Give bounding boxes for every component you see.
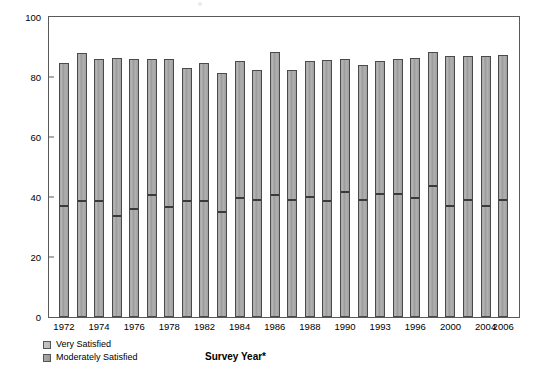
x-tick-label: 1990 xyxy=(334,321,355,332)
bar-segment-divider xyxy=(446,205,454,207)
stray-artifact-dot xyxy=(198,2,202,6)
x-tick-label: 2006 xyxy=(493,321,514,332)
stacked-bar[interactable] xyxy=(340,59,350,317)
stacked-bar[interactable] xyxy=(94,59,104,317)
plot-area: 020406080100 197219741976197819821984198… xyxy=(48,16,520,318)
stacked-bar[interactable] xyxy=(375,61,385,317)
x-tick-label: 1972 xyxy=(53,321,74,332)
stacked-bar[interactable] xyxy=(393,59,403,317)
legend-label: Moderately Satisfied xyxy=(56,352,138,363)
bar-segment-divider xyxy=(218,211,226,213)
stacked-bar[interactable] xyxy=(129,59,139,317)
chart-figure: Percent Satisfied 020406080100 197219741… xyxy=(0,0,537,377)
stacked-bar[interactable] xyxy=(199,63,209,317)
stacked-bar[interactable] xyxy=(463,56,473,317)
bar-segment-divider xyxy=(288,199,296,201)
bar-segment-divider xyxy=(130,208,138,210)
y-tick-label: 100 xyxy=(5,12,49,23)
stacked-bar[interactable] xyxy=(322,60,332,317)
bar-segment-divider xyxy=(411,197,419,199)
legend-swatch-icon xyxy=(43,341,51,349)
stacked-bar[interactable] xyxy=(428,52,438,318)
x-tick-label: 1974 xyxy=(88,321,109,332)
chart-legend: Very Satisfied Moderately Satisfied xyxy=(43,338,138,364)
bar-segment-divider xyxy=(78,200,86,202)
bar-segment-divider xyxy=(165,206,173,208)
x-tick-label: 1993 xyxy=(370,321,391,332)
stacked-bar[interactable] xyxy=(445,56,455,317)
stacked-bar[interactable] xyxy=(305,61,315,317)
legend-item-moderately-satisfied: Moderately Satisfied xyxy=(43,351,138,364)
x-tick-label: 1976 xyxy=(124,321,145,332)
x-axis-title: Survey Year* xyxy=(205,351,266,362)
x-tick-label: 1988 xyxy=(299,321,320,332)
y-tick-label: 20 xyxy=(5,252,49,263)
bar-segment-divider xyxy=(113,215,121,217)
bar-segment-divider xyxy=(359,199,367,201)
stacked-bar[interactable] xyxy=(59,63,69,317)
bar-segment-divider xyxy=(271,194,279,196)
x-tick-label: 1986 xyxy=(264,321,285,332)
bar-segment-divider xyxy=(394,193,402,195)
legend-label: Very Satisfied xyxy=(56,339,111,350)
stacked-bar[interactable] xyxy=(270,52,280,318)
y-tick-label: 0 xyxy=(5,312,49,323)
bar-segment-divider xyxy=(183,200,191,202)
y-tick-label: 80 xyxy=(5,72,49,83)
legend-item-very-satisfied: Very Satisfied xyxy=(43,338,138,351)
stacked-bar[interactable] xyxy=(182,68,192,317)
x-tick-label: 1996 xyxy=(405,321,426,332)
stacked-bar[interactable] xyxy=(77,53,87,317)
stacked-bar[interactable] xyxy=(410,58,420,318)
bar-segment-divider xyxy=(323,200,331,202)
bar-segment-divider xyxy=(376,193,384,195)
bar-segment-divider xyxy=(464,199,472,201)
y-tick-label: 40 xyxy=(5,192,49,203)
bar-segment-divider xyxy=(341,191,349,193)
stacked-bar[interactable] xyxy=(498,55,508,318)
stacked-bar[interactable] xyxy=(217,73,227,317)
x-tick-label: 2000 xyxy=(440,321,461,332)
bar-segment-divider xyxy=(499,199,507,201)
bar-segment-divider xyxy=(148,194,156,196)
stacked-bar[interactable] xyxy=(112,58,122,318)
legend-swatch-icon xyxy=(43,354,51,362)
stacked-bar[interactable] xyxy=(358,65,368,317)
bar-segment-divider xyxy=(482,205,490,207)
stacked-bar[interactable] xyxy=(287,70,297,317)
stacked-bar[interactable] xyxy=(481,56,491,317)
bar-series-group xyxy=(49,17,519,317)
bar-segment-divider xyxy=(429,185,437,187)
x-tick-label: 1982 xyxy=(194,321,215,332)
stacked-bar[interactable] xyxy=(147,59,157,317)
x-tick-label: 1978 xyxy=(159,321,180,332)
bar-segment-divider xyxy=(306,196,314,198)
y-tick-label: 60 xyxy=(5,132,49,143)
bar-segment-divider xyxy=(236,197,244,199)
x-tick-label: 1984 xyxy=(229,321,250,332)
stacked-bar[interactable] xyxy=(164,59,174,317)
bar-segment-divider xyxy=(95,200,103,202)
stacked-bar[interactable] xyxy=(235,61,245,318)
bar-segment-divider xyxy=(253,199,261,201)
stacked-bar[interactable] xyxy=(252,70,262,318)
bar-segment-divider xyxy=(200,200,208,202)
bar-segment-divider xyxy=(60,205,68,207)
